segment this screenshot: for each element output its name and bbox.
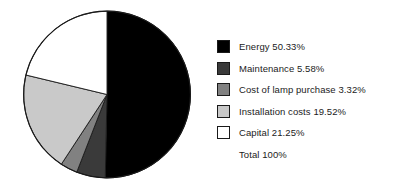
pie-chart <box>22 10 192 179</box>
legend-swatch-capital <box>217 126 230 139</box>
legend-item-cost-of-lamp-purchase: Cost of lamp purchase 3.32% <box>217 79 395 101</box>
chart-legend: Energy 50.33% Maintenance 5.58% Cost of … <box>217 36 395 165</box>
legend-label-maintenance: Maintenance 5.58% <box>239 64 324 74</box>
legend-label-installation-costs: Installation costs 19.52% <box>239 107 346 117</box>
legend-item-energy: Energy 50.33% <box>217 36 395 58</box>
legend-item-capital: Capital 21.25% <box>217 122 395 144</box>
pie-slice-group <box>24 11 191 178</box>
pie-slice <box>105 11 190 178</box>
legend-swatch-cost-of-lamp-purchase <box>217 83 230 96</box>
pie-chart-figure: Energy 50.33% Maintenance 5.58% Cost of … <box>0 0 398 186</box>
legend-swatch-maintenance <box>217 62 230 75</box>
legend-label-capital: Capital 21.25% <box>239 128 305 138</box>
legend-label-total: Total 100% <box>239 150 287 160</box>
legend-label-cost-of-lamp-purchase: Cost of lamp purchase 3.32% <box>239 85 366 95</box>
legend-swatch-installation-costs <box>217 105 230 118</box>
legend-label-energy: Energy 50.33% <box>239 42 305 52</box>
legend-item-installation-costs: Installation costs 19.52% <box>217 101 395 123</box>
legend-swatch-total <box>217 148 230 161</box>
legend-item-maintenance: Maintenance 5.58% <box>217 58 395 80</box>
legend-item-total: Total 100% <box>217 144 395 166</box>
pie-chart-svg <box>22 10 192 179</box>
legend-swatch-energy <box>217 40 230 53</box>
